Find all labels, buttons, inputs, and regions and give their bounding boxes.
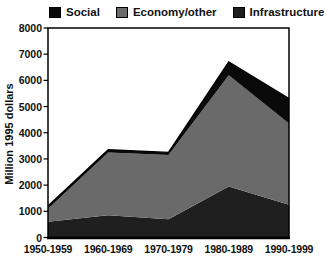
y-tick-label: 8000 bbox=[12, 22, 42, 34]
legend-swatch-icon bbox=[49, 7, 61, 18]
y-tick-label: 0 bbox=[12, 232, 42, 244]
legend-swatch-icon bbox=[233, 7, 245, 18]
x-tick-label: 1980-1989 bbox=[198, 243, 260, 255]
legend-label: Infrastructure bbox=[250, 6, 324, 18]
x-tick-label: 1970-1979 bbox=[138, 243, 200, 255]
x-tick-label: 1990-1999 bbox=[258, 243, 320, 255]
y-tick-label: 6000 bbox=[12, 74, 42, 86]
legend-swatch-icon bbox=[116, 7, 128, 18]
legend-label: Economy/other bbox=[133, 6, 217, 18]
legend-item-social: Social bbox=[49, 6, 100, 18]
legend-item-infrastructure: Infrastructure bbox=[233, 6, 324, 18]
y-tick-label: 3000 bbox=[12, 153, 42, 165]
x-tick-label: 1950-1959 bbox=[17, 243, 79, 255]
legend: SocialEconomy/otherInfrastructure bbox=[49, 6, 324, 18]
y-tick-label: 7000 bbox=[12, 48, 42, 60]
legend-item-economy-other: Economy/other bbox=[116, 6, 217, 18]
y-tick-label: 5000 bbox=[12, 101, 42, 113]
x-tick-label: 1960-1969 bbox=[77, 243, 139, 255]
y-tick-label: 1000 bbox=[12, 205, 42, 217]
legend-label: Social bbox=[66, 6, 100, 18]
y-tick-label: 4000 bbox=[12, 127, 42, 139]
y-tick-label: 2000 bbox=[12, 179, 42, 191]
